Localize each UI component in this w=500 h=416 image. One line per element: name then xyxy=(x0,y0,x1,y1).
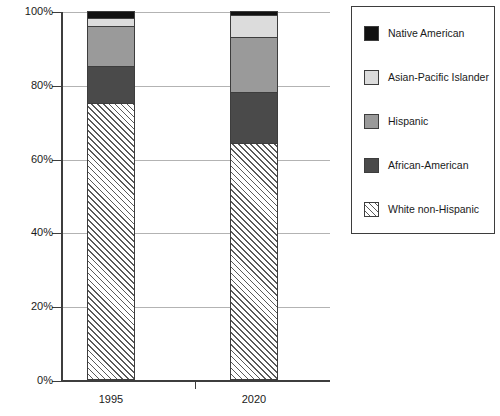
bar-segment-1995-african-american[interactable] xyxy=(88,67,134,104)
y-tick-40 xyxy=(52,233,61,234)
y-axis-label-60pct: 60% xyxy=(5,154,53,165)
bar-segment-1995-native-american[interactable] xyxy=(88,12,134,19)
legend-label: Asian-Pacific Islander xyxy=(388,71,489,83)
y-tick-100 xyxy=(52,12,61,13)
legend-item-hispanic[interactable]: Hispanic xyxy=(364,113,492,129)
y-axis-line xyxy=(61,12,63,381)
bar-1995[interactable] xyxy=(87,11,135,380)
bar-segment-1995-white-non-hispanic[interactable] xyxy=(88,104,134,379)
y-axis-label-100pct: 100% xyxy=(5,6,53,17)
legend-label: African-American xyxy=(388,159,469,171)
native-american-swatch xyxy=(364,26,379,41)
hispanic-swatch xyxy=(364,114,379,129)
legend-item-asian-pacific-islander[interactable]: Asian-Pacific Islander xyxy=(364,69,492,85)
y-tick-0 xyxy=(52,381,61,382)
y-tick-60 xyxy=(52,160,61,161)
bar-segment-2020-african-american[interactable] xyxy=(231,93,277,144)
bar-segment-2020-white-non-hispanic[interactable] xyxy=(231,144,277,379)
legend-item-native-american[interactable]: Native American xyxy=(364,25,492,41)
legend-label: Native American xyxy=(388,27,464,39)
x-axis-tick xyxy=(195,382,196,389)
bar-segment-1995-asian-pacific-islander[interactable] xyxy=(88,19,134,26)
white-non-hispanic-swatch xyxy=(364,202,379,217)
stacked-bar-chart: 0%20%40%60%80%100% 1995 2020 Native Amer… xyxy=(0,0,500,416)
y-axis-labels: 0%20%40%60%80%100% xyxy=(3,12,53,381)
legend-label: Hispanic xyxy=(388,115,428,127)
bar-segment-2020-asian-pacific-islander[interactable] xyxy=(231,16,277,38)
bar-2020[interactable] xyxy=(230,11,278,380)
x-label-2020: 2020 xyxy=(214,393,294,405)
y-axis-label-20pct: 20% xyxy=(5,301,53,312)
legend-item-white-non-hispanic[interactable]: White non-Hispanic xyxy=(364,201,492,217)
legend-item-african-american[interactable]: African-American xyxy=(364,157,492,173)
y-axis-label-0pct: 0% xyxy=(5,375,53,386)
african-american-swatch xyxy=(364,158,379,173)
legend: Native AmericanAsian-Pacific IslanderHis… xyxy=(351,6,495,234)
asian-pacific-islander-swatch xyxy=(364,70,379,85)
bar-segment-1995-hispanic[interactable] xyxy=(88,27,134,67)
legend-label: White non-Hispanic xyxy=(388,203,479,215)
y-axis-label-40pct: 40% xyxy=(5,227,53,238)
y-axis-label-80pct: 80% xyxy=(5,80,53,91)
y-tick-20 xyxy=(52,307,61,308)
bar-segment-2020-hispanic[interactable] xyxy=(231,38,277,93)
plot-area: 0%20%40%60%80%100% 1995 2020 xyxy=(61,12,330,381)
y-tick-80 xyxy=(52,86,61,87)
x-label-1995: 1995 xyxy=(71,393,151,405)
